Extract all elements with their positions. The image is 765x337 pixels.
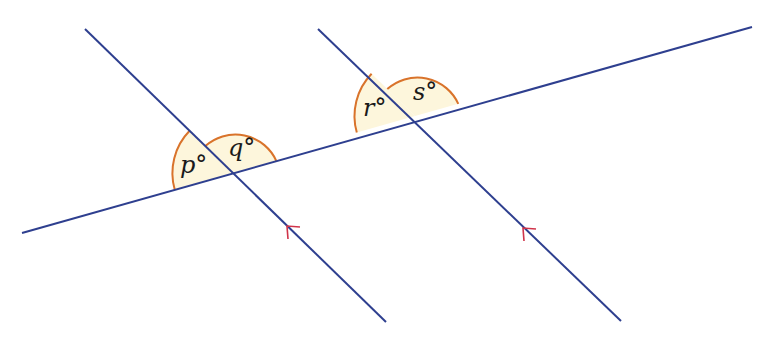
angle-label-q: q°	[228, 134, 255, 162]
geometry-diagram: p° q° r° s°	[0, 0, 765, 337]
angle-label-s: s°	[413, 78, 437, 106]
parallel-line-right	[318, 29, 621, 321]
parallel-arrow-right-icon	[523, 228, 536, 241]
transversal-line	[22, 27, 752, 233]
angle-label-r: r°	[363, 94, 386, 122]
parallel-line-left	[85, 29, 386, 322]
angle-label-p: p°	[180, 151, 207, 179]
